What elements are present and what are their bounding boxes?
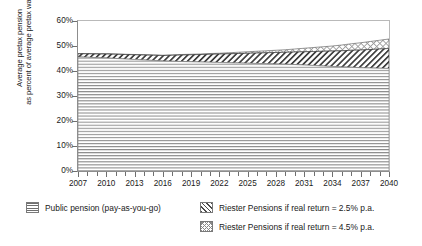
legend-item-label: Public pension (pay-as-you-go) [45, 203, 161, 213]
legend-swatch-diagonal-hatch-icon [200, 202, 213, 213]
x-axis-tick-label: 2040 [369, 179, 409, 188]
y-axis-title-line-2: as percent of average pretax wage [24, 0, 33, 138]
x-axis-tick-mark [163, 172, 164, 177]
x-axis-tick-mark [219, 172, 220, 177]
x-axis-tick-mark [182, 172, 183, 176]
legend-column-right: Riester Pensions if real return = 2.5% p… [200, 199, 374, 237]
x-axis-tick-mark [323, 172, 324, 176]
x-axis-tick-mark [314, 172, 315, 176]
x-axis-tick-mark [135, 172, 136, 177]
x-axis-tick-mark [248, 172, 249, 177]
y-axis-title-line-1: Average pretax pension [15, 0, 24, 138]
x-axis-tick-mark [351, 172, 352, 176]
x-axis-tick-mark [342, 172, 343, 176]
x-axis-tick-marks [77, 172, 391, 178]
x-axis-tick-mark [144, 172, 145, 176]
x-axis-tick-mark [295, 172, 296, 176]
x-axis-tick-mark [210, 172, 211, 176]
x-axis-tick-mark [238, 172, 239, 176]
legend-column-left: Public pension (pay-as-you-go) [26, 199, 161, 218]
legend-item-label: Riester Pensions if real return = 2.5% p… [219, 203, 374, 213]
legend-item[interactable]: Public pension (pay-as-you-go) [26, 199, 161, 216]
x-axis-tick-mark [332, 172, 333, 177]
x-axis-tick-mark [229, 172, 230, 176]
y-axis-tick-label: 10% [43, 142, 73, 150]
x-axis-tick-mark [285, 172, 286, 176]
x-axis-tick-mark [201, 172, 202, 176]
x-axis-tick-labels: 2007201020132016201920222025202820312034… [0, 179, 422, 191]
y-axis-tick-label: 60% [43, 17, 73, 25]
legend-swatch-cross-hatch-icon [200, 221, 213, 232]
y-axis-tick-label: 20% [43, 117, 73, 125]
x-axis-tick-mark [304, 172, 305, 177]
x-axis-tick-mark [370, 172, 371, 176]
legend-item[interactable]: Riester Pensions if real return = 2.5% p… [200, 199, 374, 216]
x-axis-tick-mark [380, 172, 381, 176]
x-axis-tick-mark [172, 172, 173, 176]
x-axis-tick-mark [116, 172, 117, 176]
y-axis-tick-label: 50% [43, 42, 73, 50]
x-axis-tick-mark [153, 172, 154, 176]
x-axis-tick-mark [97, 172, 98, 176]
y-axis-tick-label: 30% [43, 92, 73, 100]
x-axis-tick-mark [125, 172, 126, 176]
plot-series-svg [78, 21, 389, 171]
legend-swatch-horizontal-lines-icon [26, 202, 39, 213]
x-axis-tick-mark [266, 172, 267, 176]
x-axis-tick-mark [87, 172, 88, 176]
y-axis-tick-label: 0% [43, 167, 73, 175]
x-axis-tick-mark [106, 172, 107, 177]
legend-item-label: Riester Pensions if real return = 4.5% p… [219, 222, 374, 232]
x-axis-tick-mark [257, 172, 258, 176]
x-axis-tick-mark [389, 172, 390, 177]
x-axis-tick-mark [276, 172, 277, 177]
x-axis-tick-mark [361, 172, 362, 177]
chart-legend: Public pension (pay-as-you-go) Riester P… [0, 199, 422, 243]
x-axis-tick-mark [191, 172, 192, 177]
plot-area [77, 20, 390, 172]
y-axis-tick-label: 40% [43, 67, 73, 75]
legend-item[interactable]: Riester Pensions if real return = 4.5% p… [200, 218, 374, 235]
stacked-area-chart: Average pretax pension as percent of ave… [0, 0, 422, 246]
series-area-public-pension [78, 57, 389, 171]
x-axis-tick-mark [78, 172, 79, 177]
